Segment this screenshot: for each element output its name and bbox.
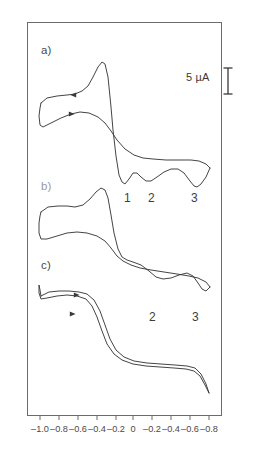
x-tick-label-7: –0.4 — [162, 424, 180, 434]
scale-bar-label: 5 µA — [186, 71, 210, 83]
x-axis-tick-labels: –1.0–0.8–0.6–0.4–0.20–0.2–0.4–0.6–0.8 — [0, 424, 258, 444]
x-tick-label-0: –1.0 — [31, 424, 49, 434]
peak-label-a-2: 2 — [148, 191, 155, 205]
cv-figure: a) b) c) 5 µA 12323 –1.0–0.8–0.6–0.4–0.2… — [0, 0, 258, 458]
x-axis-ticks — [0, 416, 258, 423]
panel-letter-b: b) — [41, 180, 52, 192]
x-tick-label-5: 0 — [130, 424, 135, 434]
curve-reverse-0 — [39, 103, 210, 168]
peak-label-a-1: 1 — [124, 191, 131, 205]
curve-forward-2 — [41, 291, 209, 393]
sweep-direction-arrow-0-1 — [69, 112, 75, 117]
peak-label-a-3: 3 — [191, 191, 198, 205]
x-tick-label-9: –0.8 — [200, 424, 218, 434]
x-tick-label-1: –0.8 — [50, 424, 68, 434]
x-tick-label-6: –0.2 — [143, 424, 161, 434]
panel-letter-c: c) — [41, 259, 51, 271]
i-beam-scale-icon — [222, 66, 234, 96]
panel-letter-a: a) — [41, 44, 52, 56]
curve-reverse-2 — [39, 285, 209, 393]
sweep-direction-arrow-0-0 — [70, 93, 76, 98]
peak-label-b-3: 3 — [192, 310, 199, 324]
x-tick-label-8: –0.6 — [181, 424, 199, 434]
x-tick-label-3: –0.4 — [88, 424, 106, 434]
curve-reverse-1 — [39, 212, 210, 287]
sweep-direction-arrow-2-1 — [70, 312, 76, 317]
x-tick-label-4: –0.2 — [107, 424, 125, 434]
curve-forward-0 — [41, 62, 210, 187]
peak-label-b-2: 2 — [149, 310, 156, 324]
x-tick-label-2: –0.6 — [69, 424, 87, 434]
